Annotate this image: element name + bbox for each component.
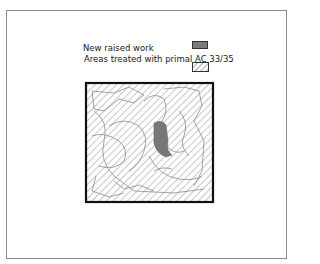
legend-label-primal-ac: Areas treated with primal AC 33/35 — [84, 54, 234, 64]
legend-swatch-solid — [192, 41, 208, 49]
legend-label-new-raised-work: New raised work — [83, 43, 154, 53]
treatment-map — [84, 81, 216, 205]
legend-swatch-hatch — [192, 62, 209, 72]
